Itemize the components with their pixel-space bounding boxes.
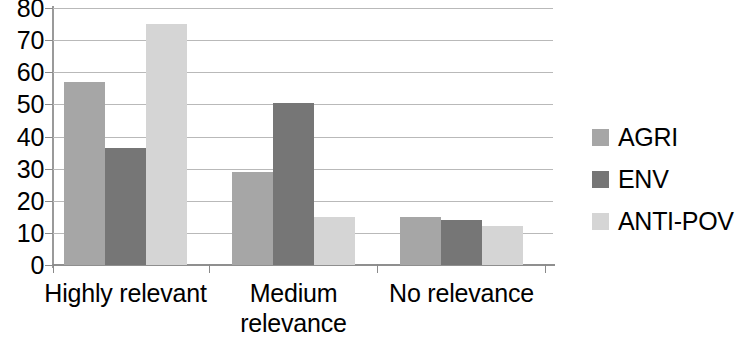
legend-swatch-icon	[592, 171, 609, 188]
y-tick-label: 10	[0, 221, 44, 246]
bar-chart: 80706050403020100 Highly relevantMedium …	[0, 0, 744, 352]
bars-layer	[52, 8, 553, 265]
x-tick-mark	[545, 264, 546, 273]
bar-agri-medium-relevance	[232, 172, 273, 265]
x-tick-mark	[377, 264, 378, 273]
bar-env-medium-relevance	[273, 103, 314, 265]
y-tick-label: 40	[0, 125, 44, 150]
legend-item-agri: AGRI	[592, 116, 744, 158]
x-tick-mark	[53, 264, 54, 273]
y-tick-label: 20	[0, 189, 44, 214]
bar-anti-pov-highly-relevant	[146, 24, 187, 265]
bar-anti-pov-medium-relevance	[314, 217, 355, 265]
bar-agri-highly-relevant	[64, 82, 105, 265]
y-tick-label: 50	[0, 92, 44, 117]
legend-item-anti-pov: ANTI-POV	[592, 200, 744, 242]
x-axis-labels: Highly relevantMedium relevanceNo releva…	[52, 278, 555, 348]
y-axis-labels: 80706050403020100	[0, 0, 44, 272]
y-tick-label: 80	[0, 0, 44, 21]
bar-env-highly-relevant	[105, 148, 146, 265]
legend-item-env: ENV	[592, 158, 744, 200]
bar-env-no-relevance	[441, 220, 482, 265]
y-tick-label: 60	[0, 60, 44, 85]
bar-anti-pov-no-relevance	[482, 226, 523, 265]
y-tick-label: 0	[0, 253, 44, 278]
x-category-label: No relevance	[372, 278, 552, 308]
legend-label: ANTI-POV	[618, 208, 734, 235]
legend-label: ENV	[618, 166, 669, 193]
x-category-label: Medium relevance	[204, 278, 384, 338]
x-category-label: Highly relevant	[36, 278, 216, 308]
y-tick-label: 30	[0, 157, 44, 182]
legend-swatch-icon	[592, 213, 609, 230]
chart-legend: AGRIENVANTI-POV	[592, 116, 744, 242]
legend-swatch-icon	[592, 129, 609, 146]
legend-label: AGRI	[618, 124, 678, 151]
bar-agri-no-relevance	[400, 217, 441, 265]
y-tick-label: 70	[0, 28, 44, 53]
x-tick-mark	[209, 264, 210, 273]
